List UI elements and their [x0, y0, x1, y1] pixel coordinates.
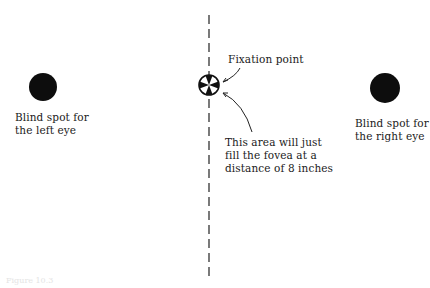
fovea-arrow [223, 93, 252, 132]
fixation-point-icon [199, 75, 219, 95]
figure-caption: Figure 10.3 [6, 276, 53, 285]
diagram-graphics [0, 0, 430, 288]
fixation-arrow [223, 68, 240, 82]
fixation-point-label: Fixation point [228, 53, 304, 66]
fovea-note-label: This area will just fill the fovea at a … [225, 136, 333, 175]
